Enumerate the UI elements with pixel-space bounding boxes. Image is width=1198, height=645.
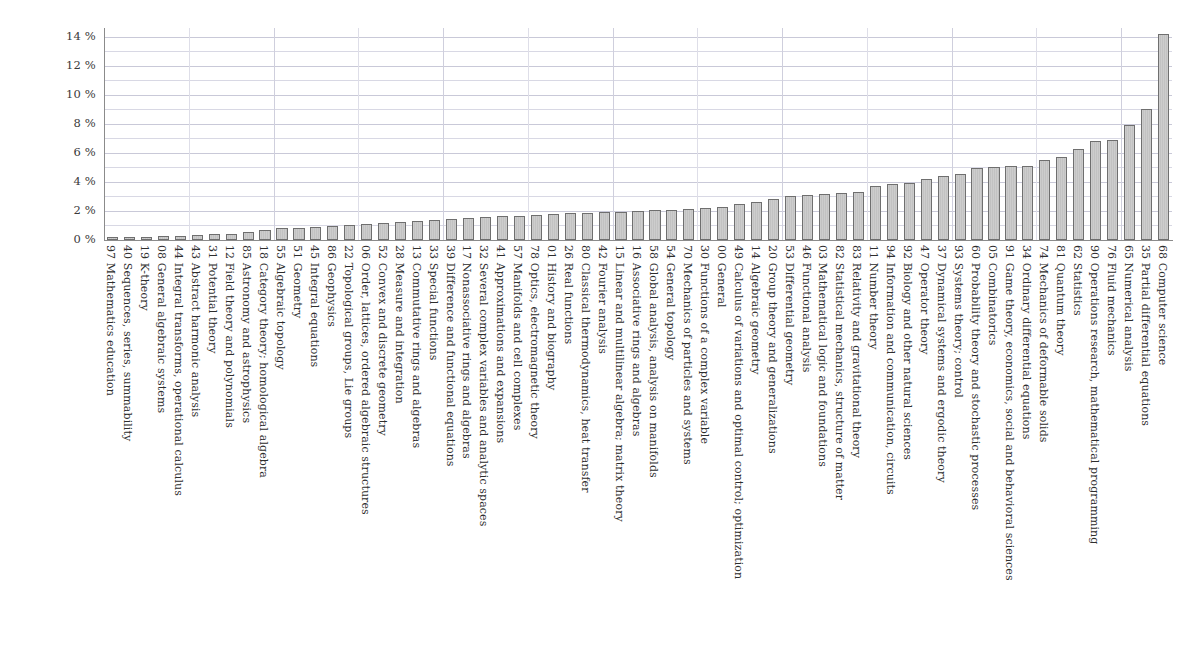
x-axis-category-label: 18 Category theory; homological algebra bbox=[258, 245, 269, 478]
bar bbox=[361, 224, 372, 240]
x-axis-category-label: 03 Mathematical logic and foundations bbox=[817, 245, 828, 467]
x-axis-category-label: 17 Nonassociative rings and algebras bbox=[461, 245, 472, 459]
x-axis-category-label: 49 Calculus of variations and optimal co… bbox=[733, 245, 744, 579]
x-axis-category-label: 85 Astronomy and astrophysics bbox=[241, 245, 252, 423]
x-axis-category-label: 46 Functional analysis bbox=[801, 245, 812, 373]
x-axis-category-label: 45 Integral equations bbox=[309, 245, 320, 367]
x-axis-category-label: 11 Number theory bbox=[868, 245, 879, 350]
bar bbox=[378, 223, 389, 240]
x-axis-category-label: 82 Statistical mechanics, structure of m… bbox=[834, 245, 845, 500]
x-axis-category-label: 91 Game theory, economics, social and be… bbox=[1004, 245, 1015, 581]
bar bbox=[887, 184, 898, 240]
x-axis-category-label: 86 Geophysics bbox=[326, 245, 337, 327]
y-axis-tick-label: 6 % bbox=[74, 147, 97, 159]
y-axis-tick-label: 8 % bbox=[74, 118, 97, 130]
bar bbox=[497, 216, 508, 240]
x-axis-category-label: 34 Ordinary differential equations bbox=[1021, 245, 1032, 439]
x-axis-category-label: 28 Measure and integration bbox=[394, 245, 405, 404]
x-axis-category-label: 81 Quantum theory bbox=[1055, 245, 1066, 355]
x-axis-category-label: 62 Statistics bbox=[1072, 245, 1083, 316]
x-axis-category-label: 43 Abstract harmonic analysis bbox=[190, 245, 201, 417]
y-axis-tick-label: 14 % bbox=[66, 31, 96, 43]
x-axis-category-label: 58 Global analysis, analysis on manifold… bbox=[648, 245, 659, 478]
bar bbox=[412, 221, 423, 240]
x-axis-category-label: 14 Algebraic geometry bbox=[750, 245, 761, 375]
x-axis-category-label: 15 Linear and multilinear algebra; matri… bbox=[614, 245, 625, 522]
bar bbox=[531, 215, 542, 240]
x-axis-category-label: 33 Special functions bbox=[428, 245, 439, 361]
x-axis-category-label: 37 Dynamical systems and ergodic theory bbox=[936, 245, 947, 483]
bar bbox=[395, 222, 406, 240]
bar bbox=[802, 195, 813, 240]
x-axis-category-label: 93 Systems theory; control bbox=[953, 245, 964, 398]
bar bbox=[819, 194, 830, 240]
x-axis-category-label: 57 Manifolds and cell complexes bbox=[512, 245, 523, 430]
bar bbox=[988, 167, 999, 240]
x-axis-category-label: 00 General bbox=[716, 245, 727, 308]
bar bbox=[293, 228, 304, 240]
x-axis-category-label: 94 Information and communication, circui… bbox=[885, 245, 896, 495]
y-axis-tick-label: 4 % bbox=[74, 176, 97, 188]
y-axis-tick-label: 2 % bbox=[74, 205, 97, 217]
x-axis-category-label: 55 Algebraic topology bbox=[275, 245, 286, 370]
x-axis-category-label: 76 Fluid mechanics bbox=[1106, 245, 1117, 356]
x-axis-category-label: 42 Fourier analysis bbox=[597, 245, 608, 354]
bar bbox=[344, 225, 355, 240]
bar bbox=[1158, 34, 1169, 240]
bar bbox=[649, 210, 660, 240]
x-axis-category-label: 05 Combinatorics bbox=[987, 245, 998, 345]
bar bbox=[632, 211, 643, 240]
x-axis-category-label: 54 General topology bbox=[665, 245, 676, 360]
bar bbox=[463, 218, 474, 240]
bar-series bbox=[104, 28, 1172, 240]
y-axis-tick-label: 10 % bbox=[66, 89, 96, 101]
bar bbox=[853, 192, 864, 240]
bar-chart: 0 %2 %4 %6 %8 %10 %12 %14 % 97 Mathemati… bbox=[0, 0, 1198, 645]
bar bbox=[1039, 160, 1050, 240]
x-axis-category-label: 53 Differential geometry bbox=[784, 245, 795, 385]
bar bbox=[1107, 140, 1118, 240]
x-axis-category-label: 20 Group theory and generalizations bbox=[767, 245, 778, 454]
x-axis-category-label: 70 Mechanics of particles and systems bbox=[682, 245, 693, 465]
bar bbox=[514, 216, 525, 240]
x-axis-category-label: 40 Sequences, series, summability bbox=[122, 245, 133, 441]
bar bbox=[599, 212, 610, 240]
bar bbox=[548, 214, 559, 240]
bar bbox=[1124, 125, 1135, 240]
bar bbox=[751, 202, 762, 240]
x-axis-category-label: 92 Biology and other natural sciences bbox=[902, 245, 913, 460]
x-axis-category-label: 80 Classical thermodynamics, heat transf… bbox=[580, 245, 591, 493]
bar bbox=[904, 183, 915, 240]
x-axis-category-label: 16 Associative rings and algebras bbox=[631, 245, 642, 436]
bar bbox=[1022, 166, 1033, 240]
bar bbox=[480, 217, 491, 240]
y-axis-tick-label: 0 % bbox=[74, 234, 97, 246]
bar bbox=[1056, 157, 1067, 240]
bar bbox=[259, 230, 270, 240]
y-axis-line bbox=[104, 28, 105, 241]
bar bbox=[446, 219, 457, 240]
bar bbox=[768, 199, 779, 240]
bar bbox=[1090, 141, 1101, 240]
bar bbox=[615, 212, 626, 240]
bar bbox=[1141, 109, 1152, 240]
bar bbox=[971, 168, 982, 240]
bar bbox=[700, 208, 711, 240]
x-axis-category-label: 83 Relativity and gravitational theory bbox=[851, 245, 862, 458]
bar bbox=[243, 232, 254, 240]
bar bbox=[582, 213, 593, 240]
bar bbox=[683, 209, 694, 240]
x-axis-category-label: 47 Operator theory bbox=[919, 245, 930, 355]
x-axis-category-label: 52 Convex and discrete geometry bbox=[377, 245, 388, 436]
bar bbox=[1005, 166, 1016, 240]
x-axis-category-label: 12 Field theory and polynomials bbox=[224, 245, 235, 428]
x-axis-category-label: 90 Operations research, mathematical pro… bbox=[1089, 245, 1100, 544]
x-axis-category-label: 51 Geometry bbox=[292, 245, 303, 318]
bar bbox=[565, 213, 576, 240]
x-axis-category-label: 06 Order, lattices, ordered algebraic st… bbox=[360, 245, 371, 515]
x-axis-category-label: 19 K-theory bbox=[139, 245, 150, 311]
x-axis-line bbox=[104, 240, 1173, 241]
x-axis-category-label: 31 Potential theory bbox=[207, 245, 218, 354]
bar bbox=[666, 210, 677, 240]
x-axis-category-label: 97 Mathematics education bbox=[105, 245, 116, 396]
